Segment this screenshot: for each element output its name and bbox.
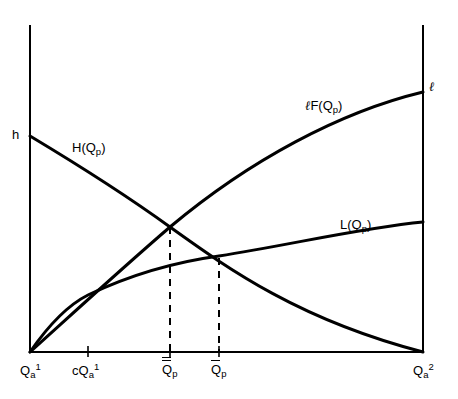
curve-label-H: H(Qp) xyxy=(72,141,105,157)
curve-label-H-base: H(Q xyxy=(72,140,96,155)
tick-label-Qa2: Qa2 xyxy=(413,362,434,380)
tick-label-cQa1-base: Q xyxy=(79,363,89,378)
single-overbar: Q xyxy=(211,363,221,376)
tick-label-Qp-double-bar: Qp xyxy=(162,363,177,379)
overbar-lower xyxy=(211,360,220,361)
curve-H xyxy=(30,136,423,352)
h-intercept-label: h xyxy=(12,128,19,141)
tick-label-Qa1: Qa1 xyxy=(20,362,41,380)
tick-label-cQa1-sup: 1 xyxy=(94,361,99,372)
curve-label-lF: ℓF(Qp) xyxy=(305,99,342,115)
h-intercept-text: h xyxy=(12,127,19,142)
ell-endpoint-text: ℓ xyxy=(429,79,434,94)
tick-label-Qa2-base: Q xyxy=(413,363,423,378)
tick-label-Qa1-base: Q xyxy=(20,363,30,378)
tick-label-cQa1: cQa1 xyxy=(72,362,99,380)
tick-label-Qa1-sup: 1 xyxy=(35,361,40,372)
plot-svg xyxy=(0,0,458,399)
curve-label-L-close: ) xyxy=(367,217,371,232)
ell-endpoint-label: ℓ xyxy=(429,80,434,93)
overbar-lower xyxy=(162,360,171,361)
overbar-upper xyxy=(162,357,171,358)
double-overbar: Q xyxy=(162,363,172,376)
tick-label-Qp-single-bar: Qp xyxy=(211,363,226,379)
tick-label-Qa2-sup: 2 xyxy=(428,361,433,372)
tick-label-Qp-double-base: Q xyxy=(162,362,172,377)
curve-label-L-base: L(Q xyxy=(340,217,362,232)
figure-container: h ℓ H(Qp) ℓF(Qp) L(Qp) Qa1 cQa1 Qp Qp Qa… xyxy=(0,0,458,399)
tick-label-Qp-double-sub: p xyxy=(172,368,177,379)
curve-label-L: L(Qp) xyxy=(340,218,371,234)
tick-label-Qp-single-base: Q xyxy=(211,362,221,377)
tick-label-Qp-single-sub: p xyxy=(221,368,226,379)
curve-label-lF-base: F(Q xyxy=(310,98,332,113)
curve-label-lF-close: ) xyxy=(338,98,342,113)
curve-label-H-close: ) xyxy=(101,140,105,155)
